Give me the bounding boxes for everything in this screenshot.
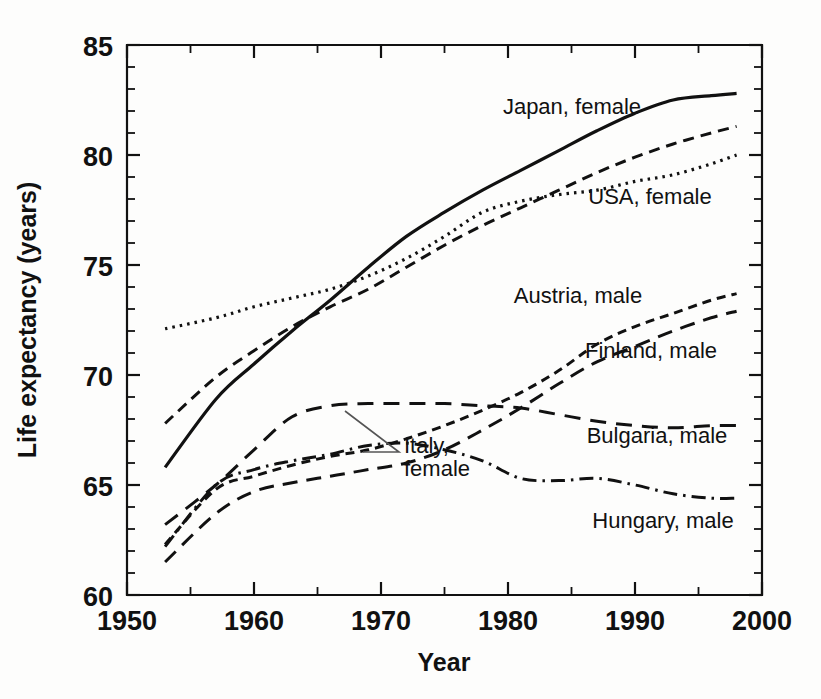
series-label-italy-female-line1: Italy, [404, 433, 449, 458]
x-axis-title: Year [418, 648, 471, 676]
series-line-japan-female [165, 93, 737, 467]
series-line-austria-male [165, 294, 737, 545]
chart-figure: 85 80 75 70 65 60 1950 1960 1970 1980 19… [0, 0, 821, 699]
series-label-finland-male: Finland, male [585, 338, 717, 363]
y-tick-label-75: 75 [83, 252, 113, 282]
life-expectancy-line-chart: 85 80 75 70 65 60 1950 1960 1970 1980 19… [0, 0, 821, 699]
series-label-italy-female-line2: female [404, 456, 470, 481]
y-tick-label-85: 85 [83, 32, 113, 62]
x-tick-label-2000: 2000 [732, 606, 792, 636]
series-label-hungary-male: Hungary, male [592, 508, 733, 533]
x-tick-label-1990: 1990 [605, 606, 665, 636]
y-tick-label-70: 70 [83, 362, 113, 392]
y-axis-title: Life expectancy (years) [13, 182, 41, 459]
series-label-japan-female: Japan, female [503, 94, 641, 119]
series-line-italy-female [165, 126, 737, 423]
x-tick-label-1970: 1970 [351, 606, 411, 636]
y-tick-label-65: 65 [83, 472, 113, 502]
y-tick-label-80: 80 [83, 142, 113, 172]
data-series-group [165, 93, 737, 562]
italy-leader-line [345, 411, 399, 452]
y-axis-tick-labels: 85 80 75 70 65 60 [83, 32, 113, 612]
series-label-austria-male: Austria, male [514, 283, 642, 308]
x-axis-tick-labels: 1950 1960 1970 1980 1990 2000 [97, 606, 792, 636]
series-label-bulgaria-male: Bulgaria, male [587, 423, 728, 448]
series-label-usa-female: USA, female [588, 184, 712, 209]
x-tick-label-1980: 1980 [478, 606, 538, 636]
series-line-usa-female [165, 155, 737, 329]
x-tick-label-1950: 1950 [97, 606, 157, 636]
series-annotations: Japan, female USA, female Italy, female … [404, 94, 734, 533]
x-tick-label-1960: 1960 [224, 606, 284, 636]
